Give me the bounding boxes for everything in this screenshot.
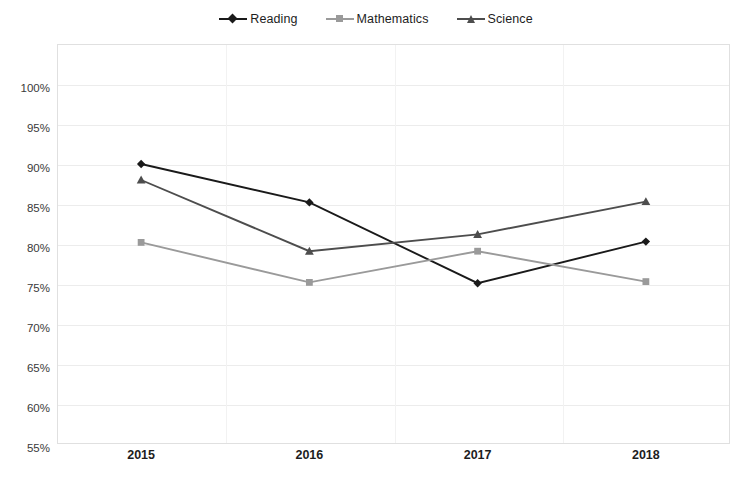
- series-line: [141, 180, 646, 251]
- y-axis-tick-label: 75%: [0, 282, 50, 294]
- legend-marker-reading: [228, 14, 238, 24]
- y-axis-tick-label: 95%: [0, 122, 50, 134]
- legend-marker-mathematics: [336, 15, 343, 22]
- x-axis-tick-label: 2015: [127, 448, 155, 462]
- series-line: [141, 164, 646, 283]
- y-axis-tick-label: 70%: [0, 322, 50, 334]
- y-axis-tick-label: 80%: [0, 242, 50, 254]
- series-science: [137, 176, 651, 255]
- y-axis-tick-label: 55%: [0, 442, 50, 454]
- line-chart: Reading Mathematics Science 100%95%90%85…: [0, 0, 752, 477]
- legend-label-science: Science: [488, 12, 533, 26]
- data-point-marker: [642, 237, 650, 245]
- square-marker-icon: [326, 13, 354, 25]
- y-axis-tick-label: 60%: [0, 402, 50, 414]
- series-layer: [57, 44, 730, 444]
- legend-item-reading[interactable]: Reading: [219, 12, 297, 26]
- y-axis-tick-label: 85%: [0, 202, 50, 214]
- y-axis-labels: 100%95%90%85%80%75%70%65%60%55%50%: [0, 44, 50, 444]
- data-point-marker: [138, 239, 145, 246]
- series-line: [141, 242, 646, 282]
- legend-label-mathematics: Mathematics: [357, 12, 429, 26]
- x-axis-tick-label: 2018: [632, 448, 660, 462]
- legend-label-reading: Reading: [250, 12, 297, 26]
- data-point-marker: [641, 197, 650, 205]
- legend-marker-science: [467, 15, 475, 23]
- series-mathematics: [138, 239, 650, 286]
- x-axis-tick-label: 2017: [464, 448, 492, 462]
- x-axis-labels: 2015201620172018: [57, 448, 730, 472]
- chart-legend: Reading Mathematics Science: [0, 7, 752, 31]
- y-axis-tick-label: 90%: [0, 162, 50, 174]
- legend-item-mathematics[interactable]: Mathematics: [326, 12, 429, 26]
- data-point-marker: [642, 278, 649, 285]
- y-axis-tick-label: 100%: [0, 82, 50, 94]
- data-point-marker: [137, 160, 145, 168]
- diamond-marker-icon: [219, 13, 247, 25]
- data-point-marker: [474, 248, 481, 255]
- triangle-marker-icon: [457, 13, 485, 25]
- legend-item-science[interactable]: Science: [457, 12, 533, 26]
- data-point-marker: [137, 176, 146, 184]
- data-point-marker: [305, 198, 313, 206]
- x-axis-tick-label: 2016: [295, 448, 323, 462]
- data-point-marker: [306, 279, 313, 286]
- y-axis-tick-label: 65%: [0, 362, 50, 374]
- data-point-marker: [473, 279, 481, 287]
